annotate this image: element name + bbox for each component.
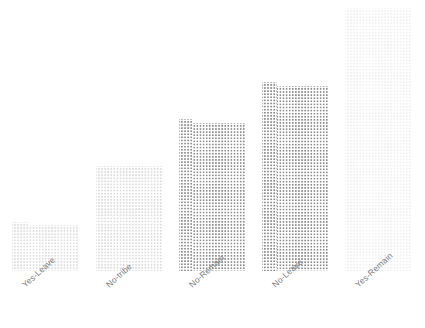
bar-group-2[interactable] bbox=[179, 119, 245, 271]
bar-chart: Yes-Leave No-tribe No-Remain No-Leave Ye… bbox=[0, 0, 425, 328]
bar-group-3[interactable] bbox=[262, 82, 328, 271]
bar-top-step-2 bbox=[179, 119, 193, 271]
plot-area: Yes-Leave No-tribe No-Remain No-Leave Ye… bbox=[0, 0, 425, 328]
bar-top-step-3 bbox=[262, 82, 277, 271]
bar-top-step-0 bbox=[12, 222, 28, 271]
bar-group-4[interactable] bbox=[345, 8, 412, 271]
bar-group-1[interactable] bbox=[96, 166, 162, 271]
bar-no-remain[interactable] bbox=[179, 123, 245, 271]
bar-no-leave[interactable] bbox=[262, 86, 328, 271]
bar-no-tribe[interactable] bbox=[96, 166, 162, 271]
bar-yes-remain[interactable] bbox=[345, 8, 412, 271]
